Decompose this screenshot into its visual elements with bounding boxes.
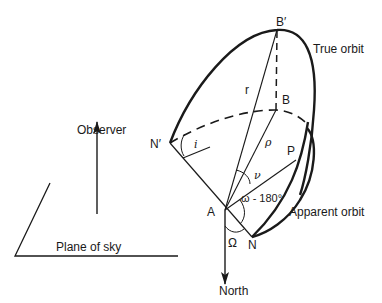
label-north: North <box>219 285 248 297</box>
label-apparent-orbit: Apparent orbit <box>289 206 364 218</box>
label-n-prime: N′ <box>150 138 161 150</box>
label-a: A <box>207 206 215 218</box>
big-omega-angle-arc <box>225 226 244 232</box>
label-plane-of-sky: Plane of sky <box>56 241 121 253</box>
b-prime-to-b-dashed <box>276 31 277 110</box>
label-i: i <box>194 139 198 150</box>
true-orbit-curve <box>170 30 315 195</box>
label-big-omega: Ω <box>228 237 237 249</box>
label-nu: ν <box>254 170 261 181</box>
label-b-prime: B′ <box>276 16 286 28</box>
nu-angle-arc <box>236 170 250 184</box>
radius-r-line <box>225 30 277 210</box>
label-p: P <box>287 145 295 157</box>
dashed-plane-arc <box>170 110 308 143</box>
label-r: r <box>245 84 249 96</box>
label-n: N <box>248 239 257 251</box>
label-omega-minus-180: ω - 180° <box>241 193 282 204</box>
label-rho: ρ <box>265 137 271 148</box>
line-of-nodes <box>170 143 252 237</box>
label-b: B <box>282 94 290 106</box>
inclination-arc <box>181 134 185 156</box>
label-observer: Observer <box>77 124 126 136</box>
label-true-orbit: True orbit <box>313 43 364 55</box>
